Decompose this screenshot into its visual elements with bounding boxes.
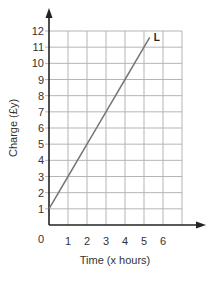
y-tick-label: 7 [38,106,44,118]
y-axis-arrow-icon [46,8,53,18]
y-tick-label: 8 [38,90,44,102]
x-axis-arrow-icon [196,222,206,229]
x-tick-label: 6 [160,235,166,247]
y-tick-label: 9 [38,74,44,86]
line-chart: 123456789101112 123456 0 L Time (x hours… [0,0,213,294]
y-tick-label: 5 [38,138,44,150]
x-axis-label: Time (x hours) [80,254,151,266]
y-axis-label: Charge (£y) [7,99,19,157]
y-tick-label: 10 [32,57,44,69]
y-tick-label: 6 [38,122,44,134]
y-tick-label: 12 [32,25,44,37]
y-tick-label: 11 [33,41,44,53]
y-tick-label: 4 [38,154,44,166]
x-tick-labels: 123456 [65,235,166,247]
x-tick-label: 3 [103,235,109,247]
y-tick-label: 1 [38,203,44,215]
x-tick-label: 5 [141,235,147,247]
x-tick-label: 4 [122,235,128,247]
y-tick-label: 2 [38,187,44,199]
origin-label: 0 [38,233,44,245]
x-tick-label: 2 [84,235,90,247]
series-label-L: L [154,32,160,43]
grid [45,31,182,225]
x-tick-label: 1 [65,235,71,247]
y-tick-labels: 123456789101112 [32,25,44,215]
y-tick-label: 3 [38,171,44,183]
